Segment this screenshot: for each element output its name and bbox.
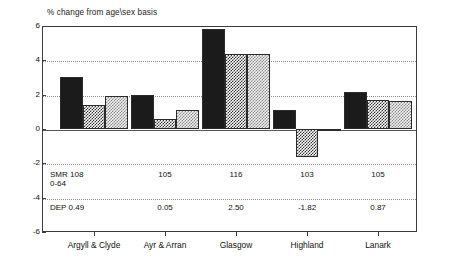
dep-value-glasgow: 2.50 [228, 203, 244, 213]
bar-glasgow-series-3 [247, 54, 270, 129]
y-tick-label-0: 0 [20, 125, 40, 133]
y-tick-label-neg6: -6 [20, 228, 40, 236]
smr-value-ayr-arran: 105 [158, 170, 171, 180]
bar-lanark-series-2 [367, 100, 389, 129]
x-label-ayr-arran: Ayr & Arran [144, 240, 187, 250]
x-label-argyll-clyde: Argyll & Clyde [68, 240, 121, 250]
y-tick-label-2: 2 [20, 91, 40, 99]
x-label-glasgow: Glasgow [220, 240, 253, 250]
y-axis: 6 4 2 0 -2 -4 -6 [16, 26, 40, 232]
bar-highland-series-3 [318, 129, 341, 131]
smr-value-glasgow: 116 [230, 170, 243, 180]
bar-lanark-series-1 [344, 92, 367, 129]
bar-group-highland [273, 26, 341, 232]
x-label-lanark: Lanark [365, 240, 391, 250]
bar-highland-series-2 [296, 129, 318, 157]
y-tick-mark-neg6 [42, 232, 46, 233]
bar-highland-series-1 [273, 110, 296, 129]
dep-annotation-row: DEP 0.49 0.05 2.50 -1.82 0.87 [42, 203, 417, 223]
bar-lanark-series-3 [389, 101, 412, 129]
bars-layer [42, 26, 417, 232]
y-tick-label-6: 6 [20, 22, 40, 30]
bar-group-argyll-clyde [60, 26, 128, 232]
bar-ayr-arran-series-3 [176, 110, 199, 129]
dep-value-ayr-arran: 0.05 [157, 203, 173, 213]
bar-ayr-arran-series-1 [131, 95, 154, 129]
smr-sub-label: 0-64 [50, 179, 66, 189]
smr-value-highland: 103 [300, 170, 313, 180]
x-tick-mark-4 [307, 232, 308, 236]
bar-chart: % change from age\sex basis 6 4 2 0 -2 -… [0, 0, 449, 262]
bar-group-glasgow [202, 26, 270, 232]
y-tick-label-neg4: -4 [20, 194, 40, 202]
dep-lead-label: DEP 0.49 [50, 203, 84, 213]
x-tick-mark-1 [94, 232, 95, 236]
x-label-highland: Highland [290, 240, 323, 250]
x-tick-mark-3 [236, 232, 237, 236]
chart-title: % change from age\sex basis [47, 8, 157, 17]
y-tick-label-4: 4 [20, 56, 40, 64]
dep-value-lanark: 0.87 [370, 203, 386, 213]
bar-glasgow-series-1 [202, 29, 225, 129]
bar-argyll-clyde-series-3 [105, 96, 128, 129]
y-tick-label-neg2: -2 [20, 159, 40, 167]
bar-group-ayr-arran [131, 26, 199, 232]
dep-value-highland: -1.82 [298, 203, 316, 213]
smr-value-lanark: 105 [371, 170, 384, 180]
smr-annotation-row: SMR 108 0-64 105 116 103 105 [42, 170, 417, 190]
x-axis: Argyll & Clyde Ayr & Arran Glasgow Highl… [42, 240, 417, 256]
bar-glasgow-series-2 [225, 54, 247, 129]
bar-group-lanark [344, 26, 412, 232]
bar-ayr-arran-series-2 [154, 119, 176, 129]
bar-argyll-clyde-series-1 [60, 77, 83, 129]
x-tick-mark-5 [378, 232, 379, 236]
x-tick-mark-2 [165, 232, 166, 236]
bar-argyll-clyde-series-2 [83, 105, 105, 129]
